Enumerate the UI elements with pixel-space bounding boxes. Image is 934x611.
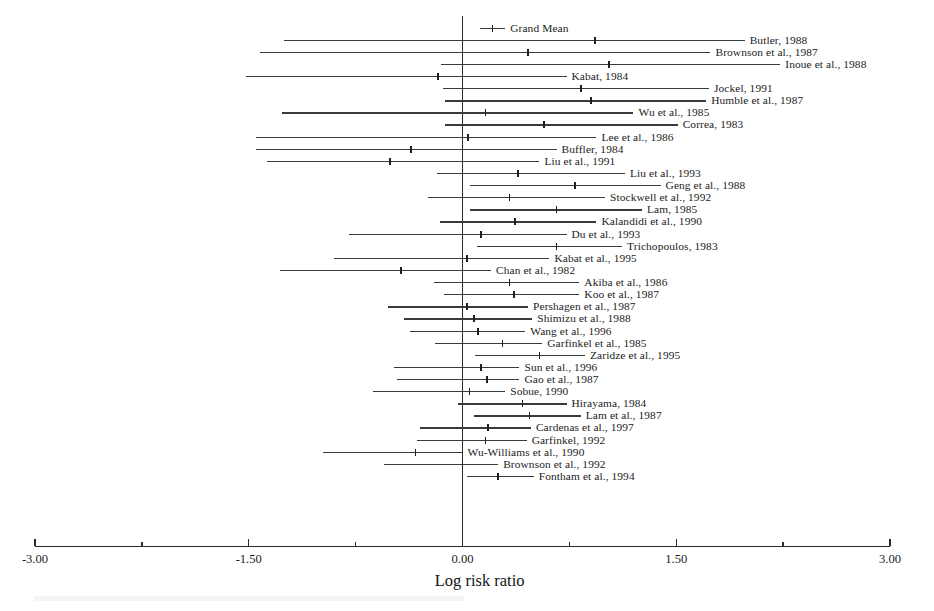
- point-estimate-marker: [590, 97, 592, 104]
- point-estimate-marker: [556, 206, 558, 213]
- point-estimate-marker: [473, 315, 475, 322]
- study-label: Kabat et al., 1995: [554, 252, 636, 264]
- point-estimate-marker: [574, 182, 576, 189]
- study-label: Wang et al., 1996: [530, 325, 611, 337]
- confidence-interval-line: [282, 112, 634, 113]
- x-axis-tick-label: 1.50: [665, 552, 687, 567]
- confidence-interval-line: [443, 88, 709, 89]
- study-label: Brownson et al., 1992: [503, 458, 605, 470]
- point-estimate-marker: [509, 279, 511, 286]
- study-label: Lam et al., 1987: [586, 409, 662, 421]
- x-axis-major-tick: [248, 539, 249, 546]
- confidence-interval-line: [410, 331, 525, 332]
- point-estimate-marker: [497, 473, 499, 480]
- study-row: Zaridze et al., 1995: [0, 349, 934, 361]
- point-estimate-marker: [492, 25, 494, 32]
- study-row: Wang et al., 1996: [0, 325, 934, 337]
- study-label: Cardenas et al., 1997: [536, 421, 634, 433]
- study-row: Shimizu et al., 1988: [0, 313, 934, 325]
- confidence-interval-line: [260, 52, 710, 53]
- study-label: Liu et al., 1993: [630, 167, 701, 179]
- study-row: Humble et al., 1987: [0, 95, 934, 107]
- point-estimate-marker: [410, 146, 412, 153]
- confidence-interval-line: [440, 221, 597, 222]
- x-axis-tick-label: -1.50: [236, 552, 262, 567]
- study-row: Jockel, 1991: [0, 83, 934, 95]
- study-label: Inoue et al., 1988: [785, 58, 866, 70]
- point-estimate-marker: [480, 231, 482, 238]
- point-estimate-marker: [469, 388, 471, 395]
- study-row: Cardenas et al., 1997: [0, 422, 934, 434]
- confidence-interval-line: [435, 343, 542, 344]
- x-axis-major-tick: [889, 539, 890, 546]
- study-label: Trichopoulos, 1983: [627, 240, 718, 252]
- study-row: Brownson et al., 1992: [0, 458, 934, 470]
- forest-plot: Grand MeanButler, 1988Brownson et al., 1…: [0, 0, 934, 611]
- study-label: Akiba et al., 1986: [584, 276, 667, 288]
- confidence-interval-line: [437, 173, 625, 174]
- confidence-interval-line: [256, 137, 597, 138]
- study-label: Pershagen et al., 1987: [533, 300, 635, 312]
- confidence-interval-line: [434, 282, 579, 283]
- study-label: Wu-Williams et al., 1990: [468, 446, 585, 458]
- study-label: Humble et al., 1987: [711, 94, 803, 106]
- confidence-interval-line: [475, 355, 585, 356]
- study-label: Kabat, 1984: [572, 70, 629, 82]
- study-row: Hirayama, 1984: [0, 398, 934, 410]
- study-row: Du et al., 1993: [0, 228, 934, 240]
- study-row: Pershagen et al., 1987: [0, 301, 934, 313]
- point-estimate-marker: [437, 73, 439, 80]
- confidence-interval-line: [267, 161, 539, 162]
- point-estimate-marker: [509, 194, 511, 201]
- point-estimate-marker: [514, 218, 516, 225]
- study-row: Geng et al., 1988: [0, 180, 934, 192]
- confidence-interval-line: [420, 427, 531, 428]
- study-label: Zaridze et al., 1995: [590, 349, 680, 361]
- confidence-interval-line: [373, 391, 506, 392]
- confidence-interval-line: [458, 403, 566, 404]
- x-axis-minor-tick: [569, 542, 570, 546]
- point-estimate-marker: [539, 352, 541, 359]
- study-row: Garfinkel et al., 1985: [0, 337, 934, 349]
- confidence-interval-line: [445, 100, 706, 101]
- study-label: Gao et al., 1987: [525, 373, 599, 385]
- study-row: Koo et al., 1987: [0, 289, 934, 301]
- study-row: Lam, 1985: [0, 204, 934, 216]
- confidence-interval-line: [470, 185, 661, 186]
- study-label: Buffler, 1984: [562, 143, 624, 155]
- confidence-interval-line: [417, 440, 527, 441]
- point-estimate-marker: [466, 255, 468, 262]
- confidence-interval-line: [284, 40, 744, 41]
- study-label: Jockel, 1991: [714, 82, 773, 94]
- point-estimate-marker: [608, 61, 610, 68]
- confidence-interval-line: [349, 234, 567, 235]
- study-label: Wu et al., 1985: [639, 106, 710, 118]
- study-label: Kalandidi et al., 1990: [601, 215, 702, 227]
- study-row: Wu et al., 1985: [0, 107, 934, 119]
- study-row: Kalandidi et al., 1990: [0, 216, 934, 228]
- study-row: Chan et al., 1982: [0, 264, 934, 276]
- study-row: Lee et al., 1986: [0, 131, 934, 143]
- point-estimate-marker: [543, 121, 545, 128]
- study-label: Butler, 1988: [750, 34, 808, 46]
- point-estimate-marker: [487, 424, 489, 431]
- study-row: Wu-Williams et al., 1990: [0, 446, 934, 458]
- study-row: Lam et al., 1987: [0, 410, 934, 422]
- x-axis-minor-tick: [141, 542, 142, 546]
- study-row: Liu et al., 1991: [0, 155, 934, 167]
- study-label: Du et al., 1993: [572, 228, 641, 240]
- caption-edge: [34, 596, 464, 601]
- x-axis-line: [35, 546, 890, 547]
- point-estimate-marker: [486, 376, 488, 383]
- x-axis-minor-tick: [355, 542, 356, 546]
- confidence-interval-line: [246, 76, 567, 77]
- point-estimate-marker: [467, 134, 469, 141]
- point-estimate-marker: [517, 170, 519, 177]
- point-estimate-marker: [389, 158, 391, 165]
- point-estimate-marker: [477, 328, 479, 335]
- study-row: Sobue, 1990: [0, 386, 934, 398]
- x-axis-major-tick: [462, 539, 463, 546]
- x-axis-major-tick: [676, 539, 677, 546]
- study-label: Geng et al., 1988: [666, 179, 746, 191]
- study-row: Trichopoulos, 1983: [0, 240, 934, 252]
